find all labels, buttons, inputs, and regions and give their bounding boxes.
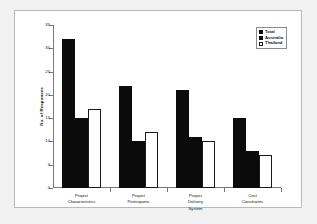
bar-thailand[interactable]: [202, 141, 215, 188]
bar-australia[interactable]: [189, 137, 202, 188]
figure-container: No. of Responses 05101520253035 Project …: [0, 0, 317, 224]
chart-panel: No. of Responses 05101520253035 Project …: [14, 10, 302, 208]
legend-item-label: Thailand: [265, 41, 282, 45]
bar-group-bars: [53, 25, 110, 188]
legend-item[interactable]: Thailand: [259, 41, 283, 45]
bar-group: Project Delivery System: [167, 25, 224, 188]
bar-group-bars: [167, 25, 224, 188]
x-axis-category-label: Cost Constraints: [223, 193, 283, 206]
legend-swatch-icon: [259, 30, 263, 34]
bar-thailand[interactable]: [145, 132, 158, 188]
y-axis-tick-label: 30: [45, 46, 50, 50]
y-axis-tick-label: 35: [45, 23, 50, 27]
bar-thailand[interactable]: [259, 155, 272, 188]
x-axis-separator: [110, 188, 111, 192]
bar-total[interactable]: [233, 118, 246, 188]
legend: TotalAustraliaThailand: [256, 27, 287, 49]
bar-group-bars: [110, 25, 167, 188]
legend-item[interactable]: Total: [259, 30, 283, 34]
bar-australia[interactable]: [75, 118, 88, 188]
x-axis-category-label: Project Delivery System: [166, 193, 226, 212]
bar-thailand[interactable]: [88, 109, 101, 188]
x-axis-separator: [224, 188, 225, 192]
bar-group-bars: [224, 25, 281, 188]
x-axis-category-label: Project Participants: [109, 193, 169, 206]
bar-total[interactable]: [176, 90, 189, 188]
bar-australia[interactable]: [132, 141, 145, 188]
y-axis-tick-label: 10: [45, 139, 50, 143]
legend-item-label: Total: [265, 30, 275, 34]
x-axis-separator: [167, 188, 168, 192]
legend-item-label: Australia: [265, 36, 283, 40]
bar-group: Project Characteristics: [53, 25, 110, 188]
legend-swatch-icon: [259, 42, 263, 46]
bar-group: Project Participants: [110, 25, 167, 188]
legend-swatch-icon: [259, 36, 263, 40]
bar-group: Cost Constraints: [224, 25, 281, 188]
y-axis-title-label: No. of Responses: [39, 87, 44, 126]
y-axis-tick-label: 5: [48, 163, 50, 167]
bar-total[interactable]: [62, 39, 75, 188]
y-axis-tick-label: 25: [45, 69, 50, 73]
y-axis-tick-label: 15: [45, 116, 50, 120]
legend-item[interactable]: Australia: [259, 36, 283, 40]
y-axis-title: No. of Responses: [37, 25, 45, 188]
bar-australia[interactable]: [246, 151, 259, 188]
bar-total[interactable]: [119, 86, 132, 188]
y-axis-tick-label: 0: [48, 186, 50, 190]
x-axis-category-label: Project Characteristics: [52, 193, 112, 206]
y-axis-tick-label: 20: [45, 93, 50, 97]
x-axis-separator: [281, 188, 282, 192]
plot-area: 05101520253035 Project CharacteristicsPr…: [53, 25, 281, 188]
